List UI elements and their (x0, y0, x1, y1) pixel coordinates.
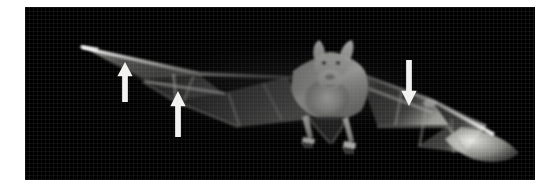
bat-photograph (25, 7, 535, 180)
annotation-arrow-up-mid (169, 91, 187, 137)
hind-limbs (302, 115, 356, 154)
bat-illustration (25, 7, 535, 180)
right-wing (356, 71, 519, 162)
figure-root (0, 0, 559, 195)
arrow-up-icon (169, 91, 187, 137)
arrow-down-icon (400, 60, 418, 106)
annotation-arrow-up-left (116, 62, 134, 102)
annotation-arrow-down-right (400, 60, 418, 106)
arrow-up-icon (116, 62, 134, 102)
